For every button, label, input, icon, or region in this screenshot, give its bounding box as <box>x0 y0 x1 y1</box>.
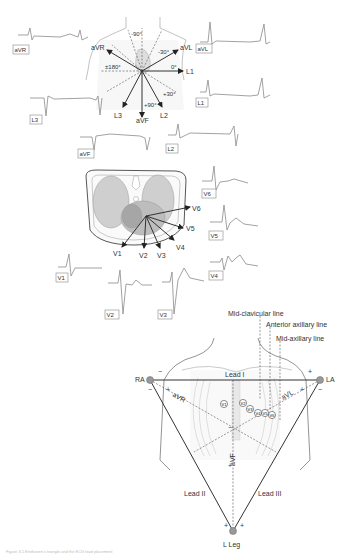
svg-text:Anterior axillary line: Anterior axillary line <box>266 321 327 329</box>
horizontal-section <box>86 170 186 245</box>
ra-electrode <box>147 377 154 384</box>
svg-text:RA: RA <box>135 376 145 383</box>
svg-text:V3: V3 <box>160 312 168 318</box>
svg-text:+30°: +30° <box>163 91 176 97</box>
svg-text:Mid-axillary line: Mid-axillary line <box>276 335 324 343</box>
svg-text:L3: L3 <box>32 117 39 123</box>
svg-text:±180°: ±180° <box>105 64 121 70</box>
svg-text:+: + <box>240 522 244 529</box>
svg-text:-90°: -90° <box>131 31 143 37</box>
la-electrode <box>317 377 324 384</box>
svg-text:V1: V1 <box>113 250 122 257</box>
svg-text:V4: V4 <box>256 411 262 416</box>
svg-text:L1: L1 <box>198 100 205 106</box>
svg-text:Mid-clavicular line: Mid-clavicular line <box>228 310 284 317</box>
svg-text:aVL: aVL <box>180 44 193 51</box>
svg-text:Lead I: Lead I <box>225 371 245 378</box>
svg-text:V1: V1 <box>58 275 66 281</box>
svg-text:V5: V5 <box>211 233 219 239</box>
svg-text:aVF: aVF <box>80 151 91 157</box>
svg-text:V5: V5 <box>186 225 195 232</box>
svg-text:V2: V2 <box>139 252 148 259</box>
svg-text:+90°: +90° <box>144 102 157 108</box>
svg-text:V6: V6 <box>270 413 276 418</box>
svg-text:−: − <box>148 386 152 393</box>
svg-text:0°: 0° <box>171 64 177 70</box>
svg-text:aVF: aVF <box>136 117 149 124</box>
svg-text:L2: L2 <box>168 146 175 152</box>
svg-text:+: + <box>166 386 170 393</box>
svg-text:aVR: aVR <box>15 47 27 53</box>
leg-electrode <box>230 528 237 535</box>
svg-text:−: − <box>158 368 162 375</box>
svg-text:V2: V2 <box>241 401 247 406</box>
svg-text:aVR: aVR <box>172 391 187 404</box>
svg-text:Lead III: Lead III <box>258 490 281 497</box>
svg-text:+: + <box>224 522 228 529</box>
torso-outline <box>160 338 310 470</box>
svg-text:L Leg: L Leg <box>223 541 240 549</box>
svg-text:L3: L3 <box>114 112 122 119</box>
figure-caption: Figure 3.1 Einthoven's triangle and the … <box>6 549 112 554</box>
svg-text:+: + <box>300 386 304 393</box>
svg-text:−: − <box>228 424 232 431</box>
svg-text:LA: LA <box>326 376 335 383</box>
svg-text:V6: V6 <box>192 205 201 212</box>
svg-text:V1: V1 <box>222 402 228 407</box>
svg-text:aVR: aVR <box>91 44 105 51</box>
svg-text:V2: V2 <box>107 312 115 318</box>
svg-text:L2: L2 <box>160 112 168 119</box>
svg-text:V4: V4 <box>211 273 219 279</box>
svg-text:V3: V3 <box>157 252 166 259</box>
svg-text:Lead II: Lead II <box>184 490 205 497</box>
svg-text:V3: V3 <box>248 407 254 412</box>
ecg-lead-diagram: -90° -30° 0° ±180° +90° +30° aVR aVL L1 … <box>0 0 352 560</box>
svg-text:L1: L1 <box>186 68 194 75</box>
svg-text:V6: V6 <box>204 191 212 197</box>
svg-text:aVL: aVL <box>280 389 294 401</box>
svg-text:-30°: -30° <box>158 49 170 55</box>
svg-text:V4: V4 <box>176 244 185 251</box>
svg-text:V5: V5 <box>263 411 269 416</box>
svg-text:−: − <box>318 386 322 393</box>
svg-text:+: + <box>228 462 232 469</box>
svg-text:aVL: aVL <box>198 46 209 52</box>
svg-text:+: + <box>308 368 312 375</box>
